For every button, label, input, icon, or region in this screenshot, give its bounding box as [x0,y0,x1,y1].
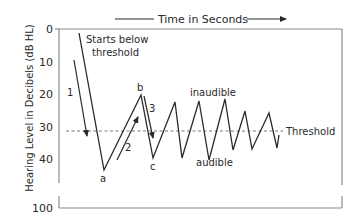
y-axis-label: Hearing Level in Decibels (dB HL) [24,24,35,192]
step-3-label: 3 [149,103,155,114]
time-axis-header: Time in Seconds [115,13,286,26]
start-label-line2: threshold [92,47,139,58]
tick-label: 40 [39,153,53,166]
threshold-label: Threshold [285,126,335,137]
point-a-label: a [100,173,106,184]
audible-label: audible [196,157,233,168]
start-label-line1: Starts below [86,34,148,45]
y-axis-ticks: 0 10 20 30 40 100 [32,23,53,215]
tick-label: 30 [39,121,53,134]
tick-label: 10 [39,56,53,69]
step-1-arrow-icon [74,60,87,136]
step-1-label: 1 [67,87,73,98]
tick-label: 0 [46,23,53,36]
inaudible-label: inaudible [190,87,236,98]
tick-label: 100 [32,202,53,215]
point-b-label: b [137,82,143,93]
step-2-label: 2 [125,142,131,153]
tick-label: 20 [39,88,53,101]
point-c-label: c [150,161,156,172]
hearing-threshold-diagram: Time in Seconds 0 10 20 30 40 100 Hearin… [0,0,360,221]
time-label: Time in Seconds [157,13,248,26]
